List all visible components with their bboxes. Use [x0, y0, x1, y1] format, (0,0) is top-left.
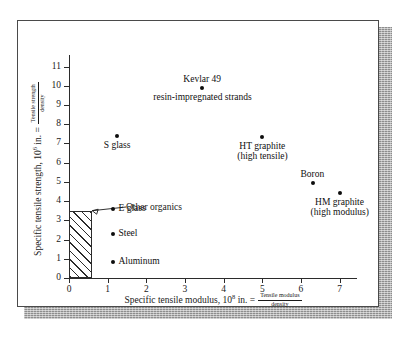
data-point	[311, 181, 315, 185]
x-axis-fraction-denominator: density	[269, 301, 290, 309]
y-axis-fraction-numerator: Tensile strength	[30, 82, 39, 124]
other-organics-leader-line	[18, 21, 380, 308]
data-point-label: Steel	[118, 228, 137, 239]
data-point	[260, 135, 264, 139]
data-point-sublabel: (high tensile)	[237, 151, 287, 162]
data-point-label: S glass	[104, 140, 131, 151]
scatter-plot: 01234567891011 01234567 Other organics K…	[18, 21, 380, 308]
x-axis-title-text: Specific tensile modulus, 108 in. =	[124, 295, 255, 306]
y-axis-fraction-denominator: density	[39, 93, 47, 114]
data-point-label: E glass	[118, 203, 145, 214]
data-point-label: Boron	[301, 169, 325, 180]
x-axis-title: Specific tensile modulus, 108 in. = Tens…	[69, 292, 357, 308]
figure-card: 01234567891011 01234567 Other organics K…	[17, 20, 379, 307]
data-point-label: Aluminum	[118, 256, 159, 267]
y-axis-fraction: Tensile strength density	[30, 82, 46, 124]
y-axis-title: Specific tensile strength, 106 in. = Ten…	[30, 55, 46, 283]
data-point-sublabel: (high modulus)	[311, 207, 369, 218]
x-axis-fraction-numerator: Tensile modulus	[258, 292, 301, 301]
data-point-sublabel: resin-impregnated strands	[153, 92, 251, 103]
y-axis-exponent: 6	[30, 147, 37, 150]
x-axis-fraction: Tensile modulus density	[258, 292, 301, 308]
data-point-label: Kevlar 49	[183, 74, 221, 85]
y-axis-title-text: Specific tensile strength, 106 in. =	[33, 127, 44, 256]
